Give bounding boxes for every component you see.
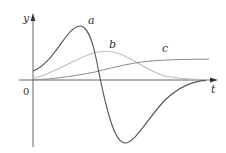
chart-svg: y t 0 a b c <box>0 0 226 153</box>
curve-label-b: b <box>109 38 116 51</box>
y-axis-arrow-icon <box>31 13 36 21</box>
curve-b <box>33 51 206 79</box>
x-axis-arrow-icon <box>210 78 218 83</box>
x-axis <box>19 78 218 83</box>
curve-a <box>33 26 206 143</box>
curve-c <box>33 59 209 80</box>
chart: y t 0 a b c <box>0 0 226 153</box>
y-axis-label: y <box>22 12 30 25</box>
curve-label-a: a <box>88 14 95 27</box>
origin-label: 0 <box>23 86 29 97</box>
x-axis-label: t <box>211 83 216 96</box>
curve-label-c: c <box>162 42 168 55</box>
